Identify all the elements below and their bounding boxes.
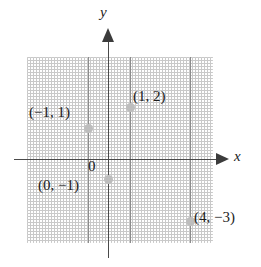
grid-col-line: [57, 57, 58, 243]
grid-col-line: [160, 57, 161, 243]
origin-label: 0: [88, 158, 96, 175]
dotted-grid: [27, 57, 213, 243]
grid-row-line: [27, 212, 213, 213]
grid-row-line: [27, 242, 213, 243]
grid-col-line: [27, 57, 28, 243]
x-axis: [14, 159, 218, 160]
point-marker-neg1-1: [84, 124, 93, 133]
grid-row-line: [27, 57, 213, 58]
vertical-line-x-4: [190, 57, 191, 243]
point-label-1-2: (1, 2): [133, 88, 166, 105]
point-marker-0-neg1: [104, 175, 113, 184]
vertical-line-x-neg1: [88, 57, 89, 243]
vertical-line-x-1: [130, 57, 131, 243]
x-axis-label: x: [234, 148, 241, 165]
grid-row-line: [27, 150, 213, 151]
point-label-neg1-1: (−1, 1): [29, 104, 70, 121]
point-label-4-neg3: (4, −3): [194, 209, 235, 226]
y-axis-arrow-icon: [102, 28, 114, 42]
grid-row-line: [27, 88, 213, 89]
y-axis-label: y: [100, 4, 107, 21]
x-axis-arrow-icon: [216, 153, 229, 165]
coordinate-plane-figure: y x 0 (−1, 1) (1, 2) (0, −1) (4, −3): [0, 0, 261, 267]
point-label-0-neg1: (0, −1): [38, 177, 79, 194]
y-axis: [108, 40, 109, 258]
